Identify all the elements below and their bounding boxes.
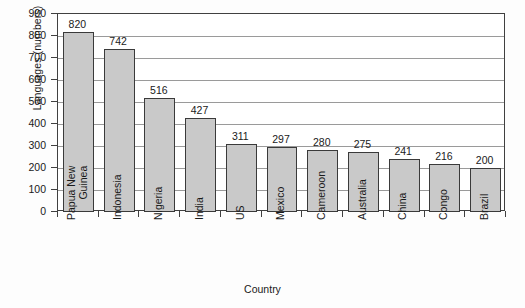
x-tick-mark (98, 211, 99, 217)
bar-value-label: 200 (476, 154, 494, 166)
bar-value-label: 427 (191, 104, 209, 116)
x-category-label-line: Nigeria (153, 187, 165, 220)
y-tick-label: 100 (0, 183, 46, 195)
bar-value-label: 297 (272, 133, 290, 145)
bar-value-label: 742 (109, 35, 127, 47)
bar-chart-figure: Languages (numbers) 01002003004005006007… (0, 0, 525, 308)
x-category-label-line: Brazil (479, 194, 491, 220)
x-tick-mark (220, 211, 221, 217)
x-category-label-line: Cameroon (316, 171, 328, 220)
y-tick-label: 500 (0, 95, 46, 107)
x-tick-mark (464, 211, 465, 217)
bar-value-label: 275 (354, 138, 372, 150)
bar[interactable] (226, 144, 257, 212)
x-category-label-line: Indonesia (112, 174, 124, 220)
bar-value-label: 216 (435, 150, 453, 162)
x-tick-mark (342, 211, 343, 217)
x-category-label-line: Papua New (66, 166, 78, 220)
x-tick-mark (261, 211, 262, 217)
bar-value-label: 516 (150, 84, 168, 96)
y-tick-label: 200 (0, 161, 46, 173)
bar-value-label: 311 (232, 130, 249, 142)
y-tick-label: 600 (0, 73, 46, 85)
x-category-label-line: US (235, 205, 247, 220)
y-tick-label: 900 (0, 7, 46, 19)
x-category-label-line: Congo (438, 189, 450, 220)
x-tick-mark (301, 211, 302, 217)
x-category-label-line: Guinea (77, 166, 89, 220)
y-tick-label: 800 (0, 29, 46, 41)
x-tick-mark (138, 211, 139, 217)
x-tick-mark (424, 211, 425, 217)
x-axis-title: Country (0, 283, 525, 295)
y-tick-label: 400 (0, 117, 46, 129)
x-category-label-line: Mexico (275, 187, 287, 220)
bar-value-label: 241 (394, 145, 412, 157)
x-category-label-line: Australia (357, 179, 369, 220)
bar-value-label: 280 (313, 136, 331, 148)
y-tick-label: 0 (0, 205, 46, 217)
y-tick-label: 300 (0, 139, 46, 151)
x-category-label-line: China (397, 193, 409, 220)
y-tick-label: 700 (0, 51, 46, 63)
bar-value-label: 820 (69, 18, 87, 30)
x-tick-mark (383, 211, 384, 217)
x-category-label-line: India (194, 197, 206, 220)
x-tick-mark (179, 211, 180, 217)
x-tick-mark (505, 211, 506, 217)
x-tick-mark (57, 211, 58, 217)
